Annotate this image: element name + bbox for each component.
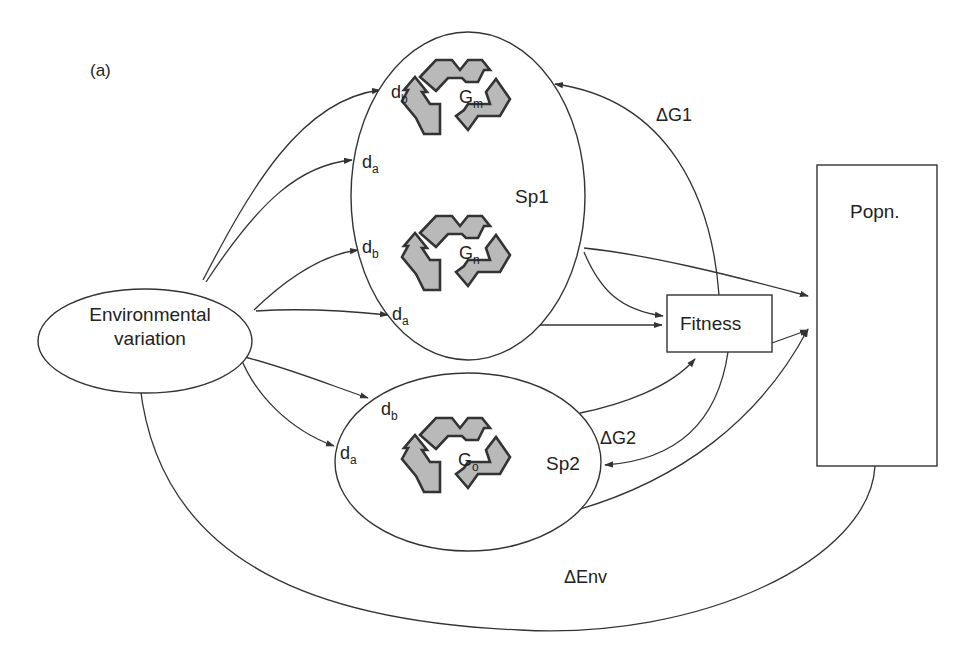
environment-label-line1: Environmental <box>89 304 210 325</box>
species1-label: Sp1 <box>515 186 549 207</box>
edge-env-sp2-db <box>240 356 368 398</box>
environment-label-line2: variation <box>114 328 186 349</box>
environment-node: Environmental variation <box>38 289 252 393</box>
edge-env-sp1-db-bottom <box>254 250 358 310</box>
population-label: Popn. <box>850 201 900 222</box>
species2-label: Sp2 <box>546 453 580 474</box>
edge-env-sp1-da-bottom <box>256 310 388 315</box>
edge-sp1-popn <box>584 248 808 296</box>
population-node: Popn. <box>817 165 937 466</box>
species2-node: Sp2 Go db da <box>335 373 601 551</box>
edge-sp1-fitness-curve <box>584 252 663 316</box>
species1-node: Sp1 Gm Gn db da db da <box>351 32 585 360</box>
diagram-svg: (a) Environmental variation Sp1 Gm Gn d <box>0 0 980 656</box>
edge-sp2-fitness <box>580 359 695 413</box>
edge-sp2-popn <box>577 329 808 510</box>
edge-env-sp1-da-top <box>206 160 352 282</box>
edge-fitness-sp2-feedback <box>605 352 728 465</box>
delta-g1-label: ΔG1 <box>656 105 692 125</box>
edge-fitness-popn <box>772 330 808 343</box>
delta-g2-label: ΔG2 <box>600 428 636 448</box>
panel-label: (a) <box>90 61 111 80</box>
fitness-label: Fitness <box>680 313 741 334</box>
delta-env-label: ΔEnv <box>564 567 607 587</box>
fitness-node: Fitness <box>667 295 772 352</box>
diagram-canvas: (a) Environmental variation Sp1 Gm Gn d <box>0 0 980 656</box>
